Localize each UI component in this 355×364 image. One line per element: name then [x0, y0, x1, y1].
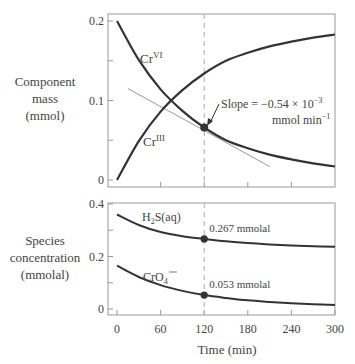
x-tick-label: 60 — [155, 322, 167, 336]
cr-vi-label: CrVI — [140, 50, 163, 66]
concentration-point — [201, 291, 208, 298]
x-tick-label: 240 — [282, 322, 300, 336]
figure: 00.10.2CrVICrIIISlope = −0.54 × 10−3mmol… — [0, 0, 355, 364]
y-tick-label: 0 — [98, 302, 104, 316]
y-tick-label: 0.2 — [89, 14, 104, 28]
x-tick-label: 300 — [326, 322, 344, 336]
bottom-y-axis-label: Species — [25, 233, 65, 248]
h2s-label: H2S(aq) — [142, 210, 181, 226]
top-y-axis-label: mass — [32, 91, 58, 106]
concentration-point — [201, 235, 208, 242]
top-y-axis-label: Component — [15, 74, 76, 89]
concentration-value-label: 0.267 mmolal — [209, 222, 270, 234]
y-tick-label: 0.1 — [89, 94, 104, 108]
slope-units: mmol min−1 — [272, 112, 330, 127]
bottom-y-axis-label: (mmolal) — [21, 267, 69, 282]
y-tick-label: 0.4 — [89, 197, 104, 211]
x-axis-label: Time (min) — [197, 342, 256, 357]
bottom-y-axis-label: concentration — [10, 250, 81, 265]
x-tick-label: 180 — [239, 322, 257, 336]
x-tick-label: 0 — [114, 322, 120, 336]
slope-point — [200, 124, 208, 132]
concentration-value-label: 0.053 mmolal — [209, 278, 270, 290]
cro4-label: CrO4 — [143, 270, 168, 286]
slope-annotation: Slope = −0.54 × 10−3 — [221, 96, 322, 111]
cr-iii-label: CrIII — [143, 133, 165, 149]
x-tick-label: 120 — [195, 322, 213, 336]
y-tick-label: 0 — [98, 173, 104, 187]
y-tick-label: 0.2 — [89, 250, 104, 264]
top-y-axis-label: (mmol) — [26, 108, 65, 123]
